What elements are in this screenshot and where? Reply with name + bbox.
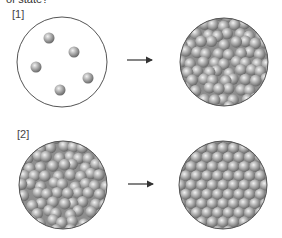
- particle-sphere: [111, 178, 123, 190]
- particle-sphere: [159, 133, 170, 144]
- particle-sphere: [154, 1, 166, 13]
- particle-sphere: [84, 224, 96, 236]
- particle-sphere: [170, 26, 182, 38]
- particle-sphere: [119, 143, 131, 155]
- particle-sphere: [185, 92, 197, 104]
- particle-sphere: [154, 142, 165, 153]
- particle-sphere: [279, 103, 282, 115]
- particle-sphere: [158, 45, 170, 57]
- particle-sphere: [170, 10, 182, 22]
- particle-sphere: [69, 47, 80, 58]
- particle-sphere: [87, 122, 99, 134]
- particle-sphere: [223, 83, 235, 95]
- particle-sphere: [164, 124, 175, 135]
- particle-sphere: [122, 236, 134, 238]
- particle-sphere: [281, 110, 282, 122]
- particle-sphere: [217, 235, 228, 238]
- particle-sphere: [44, 33, 55, 44]
- particle-sphere: [5, 125, 17, 137]
- particle-sphere: [164, 111, 176, 123]
- particle-sphere: [197, 113, 209, 125]
- particle-sphere: [170, 102, 182, 114]
- particle-sphere: [110, 163, 122, 175]
- particle-sphere: [196, 124, 207, 135]
- particle-sphere: [174, 112, 186, 124]
- particle-sphere: [261, 113, 273, 125]
- particle-sphere: [118, 205, 130, 217]
- particle-sphere: [249, 111, 261, 123]
- particle-sphere: [217, 124, 228, 135]
- particle-sphere: [111, 142, 123, 154]
- particle-sphere: [93, 169, 105, 181]
- particle-sphere: [191, 226, 202, 237]
- particle-sphere: [161, 66, 173, 78]
- particle-sphere: [2, 142, 14, 154]
- particle-sphere: [1, 163, 13, 175]
- particle-sphere: [62, 187, 74, 199]
- particle-sphere: [163, 76, 175, 88]
- particle-sphere: [228, 124, 239, 135]
- particle-sphere: [0, 135, 10, 147]
- particle-sphere: [203, 105, 215, 117]
- particle-sphere: [207, 110, 219, 122]
- particle-sphere: [271, 161, 282, 172]
- particle-sphere: [36, 122, 48, 134]
- particle-sphere: [0, 144, 4, 156]
- particle-sphere: [164, 142, 175, 153]
- particle-sphere: [159, 170, 170, 181]
- particle-sphere: [170, 226, 181, 237]
- particle-sphere: [47, 123, 59, 135]
- particle-sphere: [160, 29, 172, 41]
- particle-sphere: [281, 161, 282, 172]
- particle-sphere: [266, 9, 278, 21]
- particle-sphere: [115, 224, 127, 236]
- particle-sphere: [271, 124, 282, 135]
- particle-sphere: [15, 125, 27, 137]
- particle-sphere: [239, 235, 250, 238]
- particle-sphere: [196, 235, 207, 238]
- gas-container: [17, 17, 107, 107]
- particle-sphere: [271, 179, 282, 190]
- particle-sphere: [244, 226, 255, 237]
- particle-sphere: [180, 45, 192, 57]
- particle-sphere: [260, 216, 271, 227]
- particle-sphere: [173, 19, 185, 31]
- particle-sphere: [278, 9, 282, 21]
- liquid-container-top: [152, 0, 282, 125]
- particle-sphere: [170, 207, 181, 218]
- particle-sphere: [207, 235, 218, 238]
- particle-sphere: [207, 124, 218, 135]
- particle-sphere: [273, 21, 282, 33]
- particle-sphere: [161, 82, 173, 94]
- particle-sphere: [0, 178, 3, 190]
- particle-sphere: [105, 152, 117, 164]
- particle-sphere: [152, 18, 164, 30]
- particle-sphere: [185, 124, 196, 135]
- particle-sphere: [65, 169, 77, 181]
- particle-sphere: [175, 216, 186, 227]
- particle-sphere: [279, 84, 282, 96]
- particle-sphere: [122, 124, 134, 136]
- particle-sphere: [159, 152, 170, 163]
- particle-sphere: [276, 170, 282, 181]
- particle-sphere: [165, 39, 177, 51]
- particle-sphere: [18, 228, 30, 238]
- particle-sphere: [281, 216, 282, 227]
- particle-sphere: [91, 235, 103, 238]
- particle-sphere: [260, 20, 272, 32]
- particle-sphere: [56, 236, 68, 238]
- particle-sphere: [240, 0, 252, 11]
- particle-sphere: [186, 111, 198, 123]
- particle-sphere: [42, 227, 54, 238]
- particle-sphere: [244, 133, 255, 144]
- phase-change-diagram: [0, 0, 282, 238]
- particle-sphere: [90, 141, 102, 153]
- particle-sphere: [47, 160, 59, 172]
- particle-sphere: [216, 112, 228, 124]
- particle-sphere: [0, 236, 6, 238]
- particle-sphere: [117, 132, 129, 144]
- particle-sphere: [276, 46, 282, 58]
- particle-sphere: [5, 236, 17, 238]
- particle-sphere: [180, 133, 191, 144]
- particle-sphere: [271, 37, 282, 49]
